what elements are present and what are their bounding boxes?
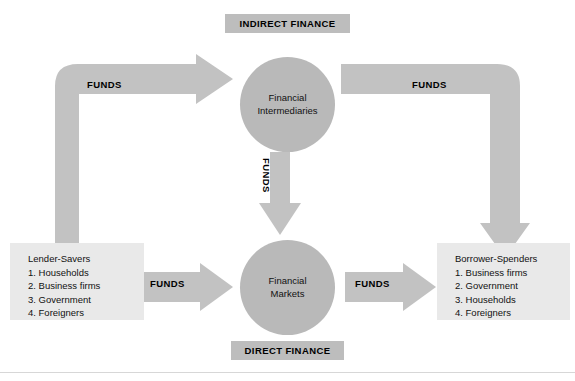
list-item: 3. Government — [28, 293, 144, 307]
borrower-spenders-box: Borrower-Spenders 1. Business firms 2. G… — [437, 243, 570, 320]
lender-savers-box: Lender-Savers 1. Households 2. Business … — [10, 243, 144, 320]
list-item: 3. Households — [455, 293, 570, 307]
borrower-spenders-list: 1. Business firms 2. Government 3. House… — [437, 266, 570, 320]
financial-markets-label-line1: Financial — [268, 275, 306, 288]
funds-label-lender-to-markets: FUNDS — [150, 278, 185, 289]
borrower-spenders-title: Borrower-Spenders — [437, 252, 570, 266]
arrow-intermediaries-to-borrower — [341, 64, 530, 258]
indirect-finance-banner: INDIRECT FINANCE — [225, 14, 350, 33]
list-item: 2. Government — [455, 279, 570, 293]
arrow-lender-to-intermediaries — [55, 54, 233, 243]
flow-of-funds-diagram: INDIRECT FINANCE DIRECT FINANCE Financia… — [0, 0, 575, 381]
funds-label-intermediaries-to-markets: FUNDS — [261, 158, 272, 193]
financial-intermediaries-node: Financial Intermediaries — [240, 57, 335, 152]
list-item: 1. Households — [28, 266, 144, 280]
figure-bottom-rule — [0, 372, 575, 373]
financial-intermediaries-label-line1: Financial — [268, 92, 306, 105]
financial-markets-label-line2: Markets — [271, 288, 305, 301]
direct-finance-banner: DIRECT FINANCE — [231, 341, 344, 360]
funds-label-intermediaries-to-borrower: FUNDS — [412, 79, 447, 90]
financial-intermediaries-label-line2: Intermediaries — [257, 105, 317, 118]
list-item: 4. Foreigners — [28, 306, 144, 320]
list-item: 4. Foreigners — [455, 306, 570, 320]
funds-label-markets-to-borrower: FUNDS — [355, 278, 390, 289]
list-item: 1. Business firms — [455, 266, 570, 280]
lender-savers-list: 1. Households 2. Business firms 3. Gover… — [10, 266, 144, 320]
funds-label-lender-to-intermediaries: FUNDS — [87, 79, 122, 90]
lender-savers-title: Lender-Savers — [10, 252, 144, 266]
list-item: 2. Business firms — [28, 279, 144, 293]
financial-markets-node: Financial Markets — [240, 240, 335, 335]
